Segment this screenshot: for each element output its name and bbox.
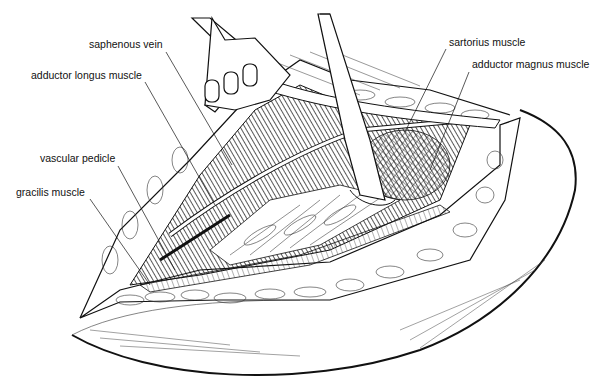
label-saphenous-vein: saphenous vein: [89, 38, 163, 50]
label-adductor-magnus-muscle: adductor magnus muscle: [472, 58, 589, 70]
retractor: [192, 18, 290, 112]
label-sartorius-muscle: sartorius muscle: [449, 36, 525, 48]
label-gracilis-muscle: gracilis muscle: [16, 186, 85, 198]
label-adductor-longus-muscle: adductor longus muscle: [31, 69, 142, 81]
label-vascular-pedicle: vascular pedicle: [40, 152, 115, 164]
anatomical-illustration: saphenous vein adductor longus muscle va…: [0, 0, 603, 387]
